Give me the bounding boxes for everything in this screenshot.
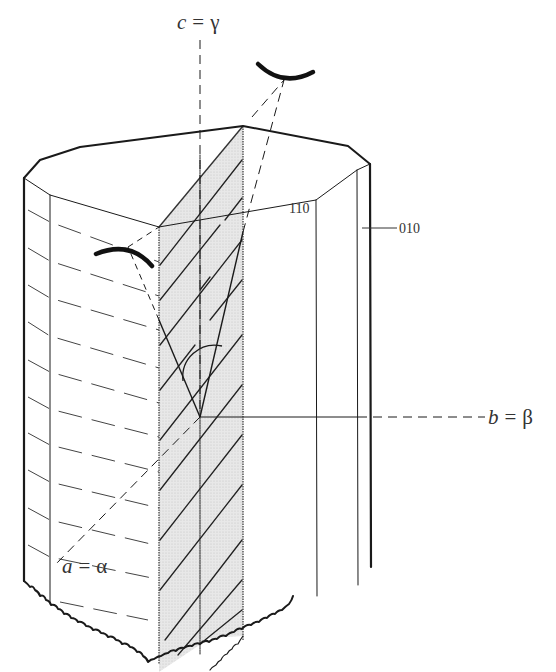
optic-axial-plane — [159, 126, 243, 672]
axis-label-b: b=β — [488, 405, 533, 429]
optic-axes — [55, 40, 485, 565]
upper-lens-icon — [258, 64, 313, 78]
face-label-110: 110 — [289, 201, 309, 216]
crystal-diagram: c=γ b=β a=α 110 010 — [0, 0, 556, 672]
face-striations — [28, 210, 159, 620]
axis-label-a: a=α — [62, 554, 107, 578]
left-lens-icon — [96, 249, 152, 266]
axis-label-c: c=γ — [177, 10, 219, 34]
face-label-010: 010 — [399, 221, 420, 236]
